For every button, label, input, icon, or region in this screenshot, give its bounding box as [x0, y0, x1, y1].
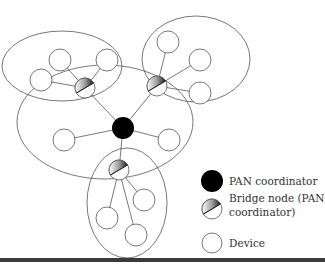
device-node: [157, 31, 179, 53]
device-node: [96, 207, 118, 229]
device-node: [158, 129, 180, 151]
legend-item-device: Device: [202, 233, 265, 253]
bridge-node: [109, 160, 129, 180]
device-node: [125, 224, 147, 246]
pan-coordinator-node: [112, 117, 134, 139]
device-node: [96, 49, 118, 71]
legend-item-bridge-node: Bridge node (PAN coordinator): [202, 192, 324, 219]
legend-item-pan-coordinator: PAN coordinator: [201, 170, 318, 192]
legend-label: Device: [229, 237, 265, 249]
device-node: [49, 49, 71, 71]
bridge-node: [147, 76, 167, 96]
bridge-node-icon: [202, 199, 222, 219]
bridge-node: [75, 78, 95, 98]
pan-coordinator-icon: [201, 170, 223, 192]
legend-label: Bridge node (PAN: [229, 192, 324, 204]
nodes: [30, 31, 211, 246]
device-node: [133, 189, 155, 211]
bridge-node: [202, 199, 222, 219]
device-node: [53, 129, 75, 151]
device-icon: [202, 233, 222, 253]
bottom-rule: [0, 258, 325, 262]
legend-label: PAN coordinator: [229, 175, 318, 187]
device-node: [30, 69, 52, 91]
legend: PAN coordinator Bridge node (PAN coordin…: [201, 170, 324, 253]
device-node: [189, 82, 211, 104]
cluster-tree-diagram: PAN coordinator Bridge node (PAN coordin…: [0, 0, 325, 269]
device-node: [189, 49, 211, 71]
legend-label: coordinator): [229, 206, 295, 218]
